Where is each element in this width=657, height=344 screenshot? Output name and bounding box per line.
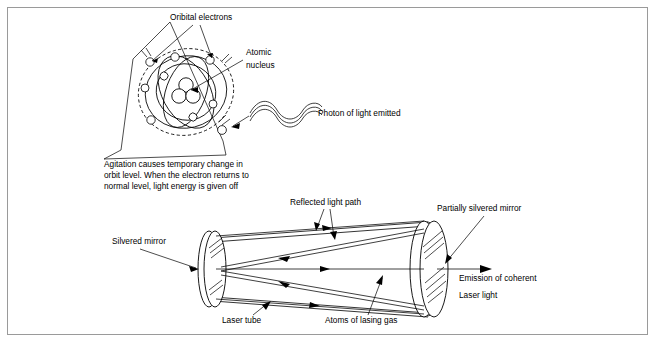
laser-tube-label: Laser tube: [222, 315, 262, 325]
emission-label-line1: Emission of coherent: [459, 273, 537, 283]
laser-panel: Reflected light path Partially silvered …: [112, 197, 537, 325]
orbital-electrons-label: Oribital electrons: [170, 12, 232, 22]
figure-page: Oribital electrons Atomic nucleus: [0, 0, 657, 344]
light-rays: [216, 221, 424, 314]
atoms-of-lasing-gas-label: Atoms of lasing gas: [325, 315, 397, 325]
partially-silvered-mirror-leader: [445, 216, 484, 264]
reflected-light-path-label: Reflected light path: [290, 197, 361, 207]
agitation-caption-line2: orbit level. When the electron returns t…: [104, 170, 249, 180]
atomic-nucleus-label-line1: Atomic: [246, 47, 271, 57]
partially-silvered-mirror-label: Partially silvered mirror: [437, 203, 522, 213]
silvered-mirror-leader: [140, 249, 199, 272]
silvered-mirror-label: Silvered mirror: [112, 236, 166, 246]
electron: [171, 53, 179, 61]
atomic-nucleus-leader: [191, 60, 243, 93]
agitation-caption-line1: Agitation causes temporary change in: [104, 159, 243, 169]
reflected-light-path-leader: [314, 209, 337, 240]
diagram-canvas: Oribital electrons Atomic nucleus: [0, 0, 657, 344]
laser-tube-leader: [253, 301, 271, 315]
electron: [209, 100, 217, 108]
emission-label-line2: Laser light: [459, 290, 498, 300]
electron: [187, 111, 198, 122]
electron: [141, 84, 149, 92]
atom-panel: Oribital electrons Atomic nucleus: [104, 12, 401, 191]
agitation-caption-line3: normal level, light energy is given off: [104, 181, 239, 191]
electron: [206, 56, 214, 64]
photon-wave: [231, 101, 322, 129]
electron: [158, 70, 169, 81]
atomic-nucleus-label-line2: nucleus: [246, 60, 275, 70]
electron: [147, 116, 155, 124]
agitation-leader-shape: [104, 22, 226, 159]
electron: [146, 58, 154, 66]
electron-emitting: [218, 126, 227, 135]
photon-label: Photon of light emitted: [318, 108, 401, 118]
